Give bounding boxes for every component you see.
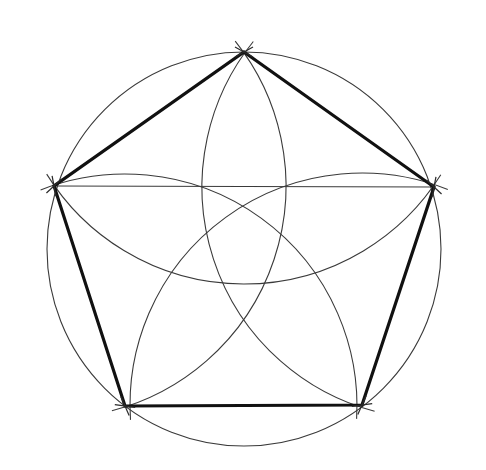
vertex-tick-marks (46, 47, 441, 415)
pentagon-construction-diagram (0, 0, 486, 470)
pentagon-polygon (54, 52, 434, 406)
pentagon-outline (54, 52, 434, 406)
outer-circle-path (47, 52, 441, 446)
construction-arc-right (202, 42, 375, 412)
outer-circle (47, 52, 441, 446)
chord-line (54, 186, 434, 187)
construction-arc-top (47, 174, 441, 284)
horizontal-chord (54, 186, 434, 187)
construction-arcs (41, 41, 448, 420)
construction-arc-left (112, 41, 286, 411)
